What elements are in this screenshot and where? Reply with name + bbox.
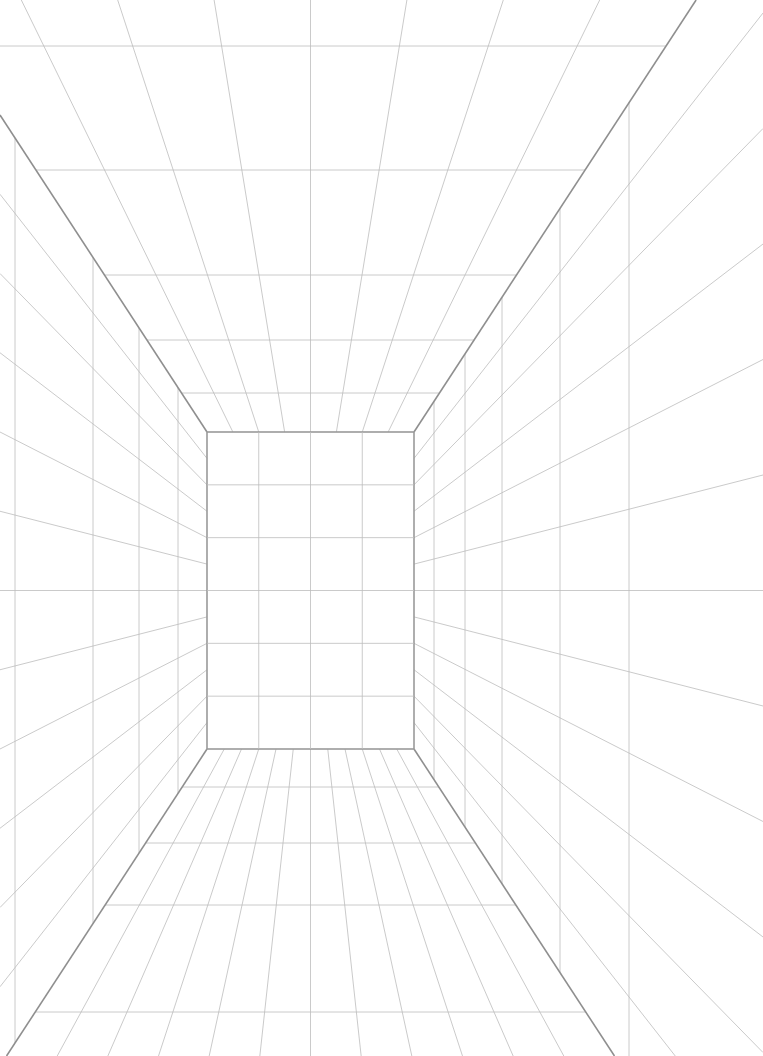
floor-radial: [159, 749, 259, 1056]
floor-radial: [209, 749, 276, 1056]
room-corner-edge: [414, 0, 696, 432]
right-wall-radial: [414, 244, 763, 511]
ceiling-radial: [362, 0, 503, 432]
room-corner-edge: [0, 115, 207, 432]
floor-radial: [380, 749, 514, 1056]
floor-radial: [108, 749, 242, 1056]
floor-radial: [362, 749, 462, 1056]
floor-radial: [345, 749, 412, 1056]
back-wall-grid: [207, 432, 414, 749]
right-wall-radial: [414, 13, 763, 458]
right-wall-radial: [414, 129, 763, 485]
right-wall-radial: [414, 696, 763, 1052]
transversal-lines: [0, 46, 666, 1056]
left-wall-radial: [0, 194, 207, 458]
left-wall-radial: [0, 274, 207, 485]
left-wall-radial: [0, 723, 207, 987]
left-wall-radial: [0, 670, 207, 829]
room-corner-edge: [414, 749, 614, 1056]
floor-radial: [397, 749, 564, 1056]
room-edges: [0, 0, 696, 1056]
floor-radial: [260, 749, 293, 1056]
floor-radial: [328, 749, 361, 1056]
left-wall-radial: [0, 511, 207, 564]
right-wall-radial: [414, 360, 763, 538]
left-wall-radial: [0, 353, 207, 512]
right-wall-radial: [414, 617, 763, 706]
left-wall-radial: [0, 432, 207, 538]
ceiling-radial: [336, 0, 407, 432]
right-wall-radial: [414, 670, 763, 937]
perspective-grid-canvas: [0, 0, 763, 1056]
right-wall-radial: [414, 643, 763, 821]
ceiling-radial: [21, 0, 233, 432]
left-wall-radial: [0, 696, 207, 907]
ceiling-radial: [214, 0, 285, 432]
right-wall-radial: [414, 723, 675, 1056]
left-wall-radial: [0, 643, 207, 749]
floor-radial: [57, 749, 224, 1056]
ceiling-radial: [388, 0, 600, 432]
left-wall-radial: [0, 617, 207, 670]
radial-lines: [0, 0, 763, 1056]
room-corner-edge: [7, 749, 207, 1056]
right-wall-radial: [414, 475, 763, 564]
